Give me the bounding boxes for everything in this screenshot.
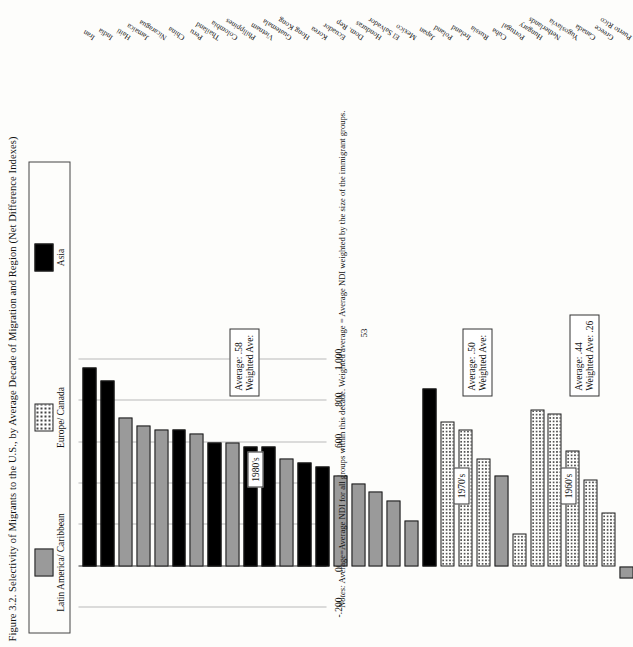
bar-iran (82, 367, 96, 565)
bar-canada (583, 479, 597, 566)
bar-dom-rep (351, 483, 365, 566)
legend-label-europe-canada: Europe/ Canada (55, 387, 65, 448)
plot-area: 1.000.800.600.400.200.000-.200IranIndiaH… (78, 42, 326, 607)
bar-russia (476, 458, 490, 565)
bar-peru (189, 433, 203, 565)
category-label: India (96, 26, 114, 42)
chart-legend: Latin America/ Caribbean Europe/ Canada … (28, 161, 70, 633)
weighted-average-label: Weighted Ave: .26 (584, 320, 594, 390)
bar-india (100, 380, 114, 566)
legend-item-asia: Asia (34, 212, 65, 302)
bar-honduras (368, 491, 382, 565)
bar-japan (422, 388, 436, 566)
bar-hong-kong (297, 462, 311, 565)
bar-cuba (494, 475, 508, 566)
bar-colombia (225, 442, 239, 566)
bar-nicaragua (154, 429, 168, 565)
bar-portugal (512, 533, 526, 566)
legend-item-latin-america: Latin America/ Caribbean (34, 502, 65, 622)
bar-poland (440, 421, 454, 566)
category-label: China (165, 25, 185, 42)
average-label: Average: .58 (233, 342, 243, 390)
bar-puerto-rico (619, 566, 633, 578)
figure-title: Figure 3.2. Selectivity of Migrants to t… (6, 81, 18, 641)
average-label: Average: .44 (573, 342, 583, 390)
bar-jamaica (136, 425, 150, 566)
bar-thailand (207, 442, 221, 566)
gridline (78, 399, 326, 400)
average-box-1970s: Average: .50Weighted Ave: (462, 328, 492, 396)
bar-netherlands (547, 413, 561, 566)
legend-swatch-europe-canada-icon (34, 403, 53, 431)
legend-label-latin-america: Latin America/ Caribbean (55, 513, 65, 612)
decade-label-1980s: 1980's (247, 451, 263, 487)
average-box-1960s: Average: .44Weighted Ave: .26 (569, 314, 599, 396)
decade-label-1960s: 1960's (560, 467, 576, 503)
notes-label: Notes: (336, 585, 346, 607)
bar-hungary (530, 409, 544, 566)
notes-text: Average=Average NDI for all groups withi… (336, 110, 346, 584)
legend-label-asia: Asia (55, 248, 65, 265)
bar-mexico (404, 520, 418, 565)
gridline (78, 606, 326, 607)
legend-swatch-latin-america-icon (34, 548, 53, 576)
figure-notes: Notes: Average=Average NDI for all group… (336, 42, 346, 607)
bar-haiti (118, 417, 132, 566)
category-label: Iran (81, 28, 96, 42)
average-label: Average: .50 (466, 342, 476, 390)
legend-swatch-asia-icon (34, 243, 53, 271)
weighted-average-label: Weighted Ave: (477, 334, 487, 390)
decade-label-1970s: 1970's (453, 467, 469, 503)
category-label: Russia (468, 23, 490, 41)
bar-korea (315, 466, 329, 565)
bar-china (172, 429, 186, 565)
category-label: Ireland (449, 23, 472, 42)
legend-item-europe-canada: Europe/ Canada (34, 372, 65, 462)
gridline (78, 358, 326, 359)
page-number: 53 (358, 328, 368, 337)
average-box-1980s: Average: .58Weighted Ave: (229, 328, 259, 396)
weighted-average-label: Weighted Ave: (244, 334, 254, 390)
bar-greece (601, 512, 615, 566)
bar-guatemala (279, 458, 293, 565)
bar-el-salvador (386, 500, 400, 566)
